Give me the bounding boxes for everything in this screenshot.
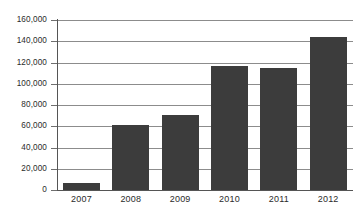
bar[interactable] xyxy=(63,183,100,190)
y-axis-tick-label: 0 xyxy=(3,186,47,194)
y-axis-tick-label: 140,000 xyxy=(3,37,47,45)
x-axis-category-label: 2012 xyxy=(304,194,353,205)
x-axis-category-label: 2009 xyxy=(156,194,205,205)
bar[interactable] xyxy=(162,115,199,190)
bar-slot xyxy=(156,20,205,190)
bar[interactable] xyxy=(211,66,248,190)
bar-slot xyxy=(106,20,155,190)
bar[interactable] xyxy=(112,125,149,190)
x-axis-category-label: 2010 xyxy=(205,194,254,205)
bar[interactable] xyxy=(260,68,297,190)
y-axis-tick-label: 60,000 xyxy=(3,122,47,130)
axis-baseline xyxy=(57,190,353,191)
y-axis-tick-label: 160,000 xyxy=(3,16,47,24)
x-axis-category-label: 2008 xyxy=(106,194,155,205)
bar-slot xyxy=(304,20,353,190)
bar[interactable] xyxy=(310,37,347,190)
y-axis-tick-label: 120,000 xyxy=(3,59,47,67)
y-axis-tick-label: 20,000 xyxy=(3,165,47,173)
x-axis-category-label: 2007 xyxy=(57,194,106,205)
y-axis-tick xyxy=(51,190,57,191)
bar-slot xyxy=(57,20,106,190)
y-axis-tick-label: 40,000 xyxy=(3,144,47,152)
y-axis-tick-label: 100,000 xyxy=(3,80,47,88)
bar-slot xyxy=(205,20,254,190)
bar-series xyxy=(57,20,353,190)
bar-slot xyxy=(254,20,303,190)
x-axis-labels: 200720082009201020112012 xyxy=(57,194,353,212)
y-axis-tick-label: 80,000 xyxy=(3,101,47,109)
bar-chart: 020,00040,00060,00080,000100,000120,0001… xyxy=(0,0,358,216)
x-axis-category-label: 2011 xyxy=(254,194,303,205)
